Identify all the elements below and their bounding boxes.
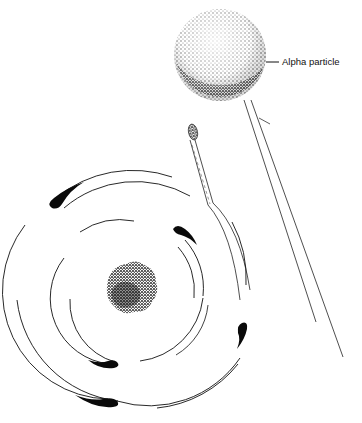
electron-3 bbox=[237, 323, 247, 349]
alpha-particle-label: Alpha particle bbox=[282, 56, 340, 67]
nucleus bbox=[107, 261, 157, 313]
electron-1 bbox=[49, 182, 84, 209]
deflection-dash bbox=[259, 118, 270, 124]
ejected-electron bbox=[187, 123, 250, 300]
alpha-particle-sphere bbox=[174, 9, 266, 101]
alpha-particle-track bbox=[244, 100, 343, 357]
electron-2 bbox=[173, 226, 197, 245]
electron-4 bbox=[88, 360, 118, 368]
